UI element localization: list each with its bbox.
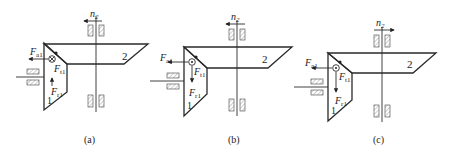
axial-force-label: Fa1 bbox=[304, 57, 318, 70]
tangential-force-label: Ft1 bbox=[53, 63, 66, 76]
gear-2-body bbox=[184, 47, 292, 68]
speed-label: n2 bbox=[376, 17, 385, 30]
panel-caption: (c) bbox=[373, 134, 384, 146]
tangential-force-into-page-icon bbox=[49, 56, 56, 63]
gear-2-label: 2 bbox=[262, 53, 268, 65]
panel-caption: (a) bbox=[84, 134, 95, 146]
mesh-point bbox=[194, 55, 197, 58]
speed-label: n2 bbox=[90, 8, 99, 21]
tangential-force-label: Ft1 bbox=[338, 71, 351, 84]
speed-label: n2 bbox=[231, 11, 240, 24]
panel-a: 2 1 n2 Ft1 bbox=[16, 8, 148, 146]
panel-c: 2 1 n2 Ft1 Fa1 Fr1 (c) bbox=[294, 17, 436, 146]
axial-force-label: Fa1 bbox=[29, 46, 43, 59]
gear-1-label: 1 bbox=[331, 105, 336, 116]
panel-b: 2 1 n2 Ft1 Fa1 Fr1 (b) bbox=[150, 11, 292, 146]
bevel-gear-diagram: 2 1 n2 Ft1 bbox=[0, 0, 451, 159]
tangential-force-label: Ft1 bbox=[193, 66, 206, 79]
axial-force-label: Fa1 bbox=[159, 52, 173, 65]
radial-force-label: Fr1 bbox=[188, 87, 201, 100]
gear-1-label: 1 bbox=[187, 100, 192, 111]
mesh-point bbox=[338, 60, 341, 63]
panel-caption: (b) bbox=[228, 134, 240, 146]
radial-force-label: Fr1 bbox=[50, 86, 63, 99]
radial-force-label: Fr1 bbox=[334, 95, 347, 108]
tangential-force-out-of-page-icon bbox=[189, 59, 196, 66]
mesh-point bbox=[54, 51, 57, 54]
gear-2-label: 2 bbox=[122, 50, 128, 62]
gear-2-label: 2 bbox=[407, 58, 413, 70]
